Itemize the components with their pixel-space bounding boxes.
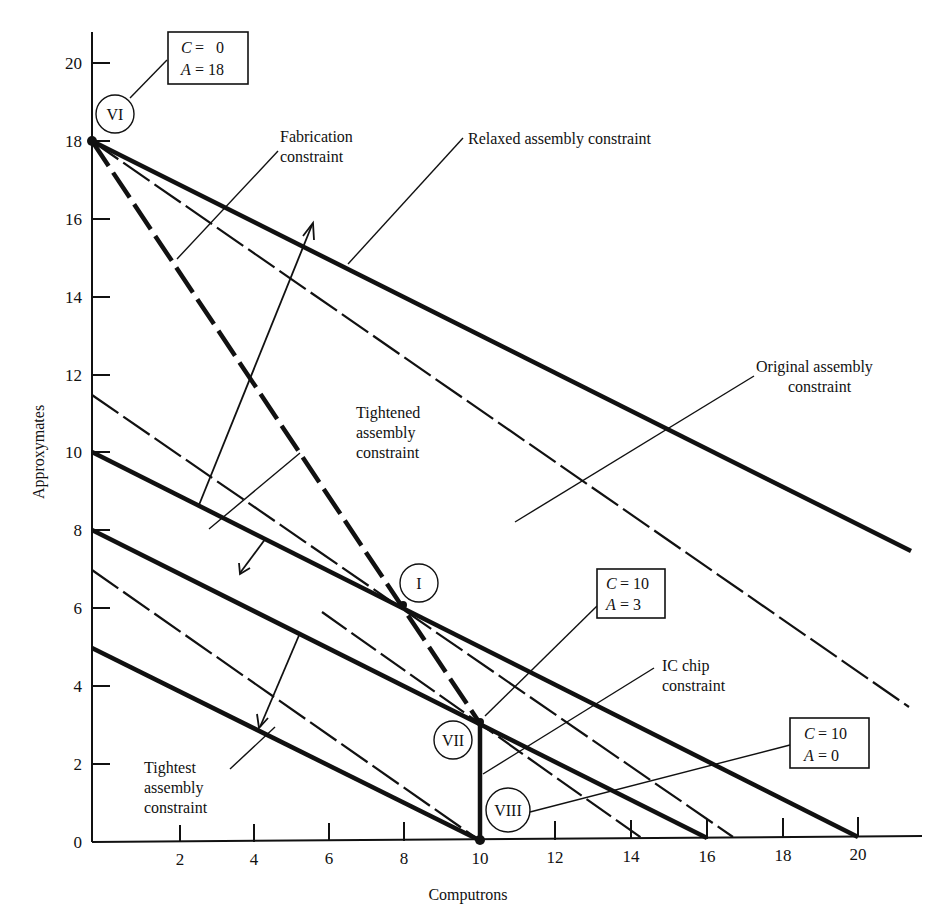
constraint-diagram: 0 2 4 6 8 10 12 14 16 18 20 2 4 6 8 10 1… xyxy=(0,0,945,919)
svg-text:12: 12 xyxy=(547,848,564,867)
svg-text:16: 16 xyxy=(699,847,716,866)
x-tick-labels: 2 4 6 8 10 12 14 16 18 20 xyxy=(176,845,867,869)
svg-text:16: 16 xyxy=(65,210,82,229)
svg-text:A: A xyxy=(180,61,191,78)
leader-lines xyxy=(130,60,790,812)
value-box-vii: C = 10 A = 3 xyxy=(597,569,665,618)
point-vii-dot xyxy=(476,718,484,726)
svg-text:20: 20 xyxy=(850,845,867,864)
svg-text:14: 14 xyxy=(623,847,641,866)
tightened-label-1: Tightened xyxy=(356,404,420,422)
svg-text:10: 10 xyxy=(472,849,489,868)
fabrication-line xyxy=(92,141,479,722)
svg-text:= 10: = 10 xyxy=(818,725,847,742)
value-box-viii: C = 10 A = 0 xyxy=(790,718,869,768)
y-tick-labels: 0 2 4 6 8 10 12 14 16 18 20 xyxy=(65,54,83,852)
point-viii-label: VIII xyxy=(494,802,522,819)
fabrication-label-2: constraint xyxy=(280,148,344,165)
svg-text:2: 2 xyxy=(74,755,83,774)
ic-chip-label-2: constraint xyxy=(662,677,726,694)
annotations: Fabrication constraint Relaxed assembly … xyxy=(144,128,873,816)
svg-text:0: 0 xyxy=(74,833,83,852)
tightest-label-2: assembly xyxy=(144,779,204,797)
svg-text:14: 14 xyxy=(65,288,83,307)
tightest-label-1: Tightest xyxy=(144,759,196,777)
y-axis-title: Approxymates xyxy=(30,405,48,499)
point-i-dot xyxy=(399,601,407,609)
svg-text:10: 10 xyxy=(65,443,82,462)
svg-text:4: 4 xyxy=(250,850,259,869)
svg-text:18: 18 xyxy=(775,846,792,865)
svg-text:6: 6 xyxy=(74,599,83,618)
original-assembly-line xyxy=(92,452,858,837)
svg-text:= 10: = 10 xyxy=(620,575,649,592)
corner-points xyxy=(87,136,485,845)
x-axis xyxy=(92,836,922,842)
svg-text:A: A xyxy=(803,747,814,764)
svg-text:2: 2 xyxy=(176,850,185,869)
svg-text:C: C xyxy=(181,39,192,56)
relaxed-label: Relaxed assembly constraint xyxy=(468,130,652,148)
original-label-1: Original assembly xyxy=(756,358,873,376)
svg-text:8: 8 xyxy=(400,849,409,868)
svg-text:18: 18 xyxy=(65,132,82,151)
point-i-label: I xyxy=(416,575,421,592)
relax-arrow xyxy=(199,225,312,505)
svg-text:8: 8 xyxy=(74,521,83,540)
tightest-arrow xyxy=(260,633,300,727)
tightened-label-2: assembly xyxy=(356,424,416,442)
point-viii-dot xyxy=(475,835,485,845)
tightest-label-3: constraint xyxy=(144,799,208,816)
svg-text:6: 6 xyxy=(325,849,334,868)
svg-text:4: 4 xyxy=(74,677,83,696)
svg-text:= 0: = 0 xyxy=(818,747,839,764)
svg-text:20: 20 xyxy=(65,54,82,73)
y-ticks xyxy=(92,63,110,764)
point-vi-label: VI xyxy=(107,106,124,123)
svg-text:C: C xyxy=(606,575,617,592)
thin-dashed-line-18 xyxy=(92,141,909,707)
corner-point-labels: VI I VII VIII xyxy=(96,95,530,832)
tightened-label-3: constraint xyxy=(356,444,420,461)
tighten-arrow xyxy=(240,538,266,573)
relaxed-assembly-line xyxy=(92,141,911,551)
point-vi-dot xyxy=(87,136,97,146)
ic-chip-label-1: IC chip xyxy=(662,657,710,675)
point-vii-label: VII xyxy=(442,732,464,749)
svg-text:= 0: = 0 xyxy=(195,39,224,56)
arrows xyxy=(199,223,314,728)
value-box-vi: C = 0 A = 18 xyxy=(168,32,248,84)
constraint-lines xyxy=(92,141,911,840)
svg-text:C: C xyxy=(804,725,815,742)
original-label-2: constraint xyxy=(788,378,852,395)
svg-text:= 3: = 3 xyxy=(620,596,641,613)
fabrication-label-1: Fabrication xyxy=(280,128,353,145)
tighten-arrowhead xyxy=(239,563,250,574)
svg-text:A: A xyxy=(605,596,616,613)
svg-text:12: 12 xyxy=(65,366,82,385)
x-axis-title: Computrons xyxy=(428,886,507,904)
svg-text:= 18: = 18 xyxy=(195,61,224,78)
